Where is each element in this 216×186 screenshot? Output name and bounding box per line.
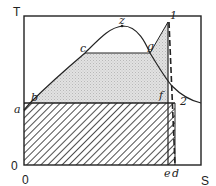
point-label-f: f (159, 90, 163, 101)
stippled-region (30, 22, 168, 103)
point-label-1: 1 (170, 10, 177, 21)
x-axis-label: S (201, 175, 209, 186)
origin-x-label: 0 (22, 174, 29, 186)
point-label-2: 2 (180, 96, 187, 107)
hatched-region (24, 103, 168, 165)
point-label-d: d (172, 168, 179, 179)
point-label-z: z (119, 15, 125, 26)
origin-y-label: 0 (11, 160, 18, 172)
point-label-g: g (147, 41, 154, 52)
point-label-b: b (31, 92, 38, 103)
y-axis-label: T (13, 6, 20, 18)
point-label-c: c (80, 43, 86, 54)
point-label-a: a (14, 104, 21, 115)
point-label-e: e (164, 168, 171, 179)
